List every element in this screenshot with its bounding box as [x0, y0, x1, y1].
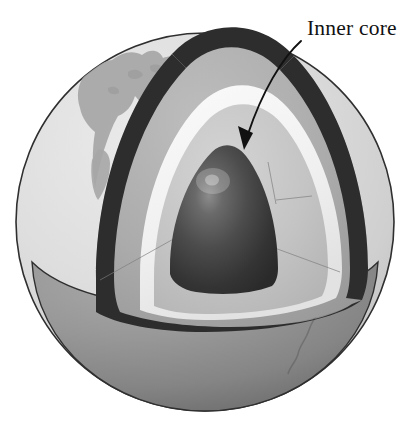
earth-cutaway-illustration: Inner core: [0, 0, 413, 424]
globe-group: [16, 27, 394, 411]
earth-cutaway-figure: Inner core: [0, 0, 413, 424]
inner-core-label: Inner core: [307, 16, 397, 40]
